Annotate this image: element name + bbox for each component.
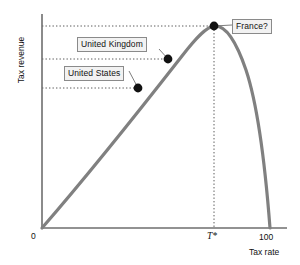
- annotation-france[interactable]: France?: [232, 19, 272, 34]
- data-point-france[interactable]: [210, 22, 219, 31]
- annotation-united-kingdom[interactable]: United Kingdom: [77, 37, 147, 52]
- laffer-curve-figure: United Kingdom United States France? Tax…: [0, 0, 300, 265]
- y-axis-label: Tax revenue: [16, 25, 26, 95]
- x-tick-label-max-rate: 100: [259, 232, 273, 242]
- x-axis-label: Tax rate: [249, 247, 279, 257]
- laffer-curve-path: [42, 26, 270, 228]
- chart-canvas: [0, 0, 300, 265]
- annotation-united-states[interactable]: United States: [64, 66, 124, 81]
- x-tick-label-origin: 0: [31, 231, 36, 241]
- data-point-united-kingdom[interactable]: [164, 55, 173, 64]
- x-tick-label-t-star: T*: [207, 231, 217, 241]
- data-point-united-states[interactable]: [134, 84, 143, 93]
